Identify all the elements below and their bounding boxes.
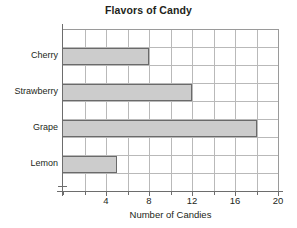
y-axis-category-labels: CherryStrawberryGrapeLemon <box>0 0 58 228</box>
x-axis-tick <box>63 191 64 195</box>
gridline-horizontal <box>63 173 278 174</box>
bar-cherry <box>62 48 149 65</box>
y-axis-label-grape: Grape <box>33 122 58 132</box>
gridline-vertical <box>214 29 215 191</box>
gridline-horizontal <box>63 137 278 138</box>
gridline-vertical <box>149 29 150 191</box>
y-axis-line <box>62 24 63 196</box>
x-axis-tick-label-8: 8 <box>134 195 164 206</box>
y-axis-label-lemon: Lemon <box>30 158 58 168</box>
origin-tick <box>58 186 67 187</box>
gridline-vertical <box>278 29 279 191</box>
x-axis-tick-label-4: 4 <box>91 195 121 206</box>
y-axis-label-strawberry: Strawberry <box>14 86 58 96</box>
bar-grape <box>62 120 257 137</box>
gridline-vertical <box>171 29 172 191</box>
x-axis-tick-label-16: 16 <box>220 195 250 206</box>
gridline-horizontal <box>63 29 278 30</box>
gridline-vertical <box>192 29 193 191</box>
x-axis-tick <box>214 191 215 195</box>
bar-lemon <box>62 156 117 173</box>
bar-strawberry <box>62 84 192 101</box>
gridline-horizontal <box>63 101 278 102</box>
bar-chart: Flavors of Candy CherryStrawberryGrapeLe… <box>0 0 297 228</box>
y-axis-label-cherry: Cherry <box>31 50 58 60</box>
plot-area <box>63 29 278 191</box>
gridline-vertical <box>257 29 258 191</box>
x-axis-tick-label-20: 20 <box>263 195 293 206</box>
x-axis-tick <box>128 191 129 195</box>
gridline-vertical <box>235 29 236 191</box>
x-axis-tick <box>257 191 258 195</box>
x-axis-tick <box>171 191 172 195</box>
x-axis-tick-label-12: 12 <box>177 195 207 206</box>
gridline-horizontal <box>63 65 278 66</box>
x-axis-title: Number of Candies <box>63 209 278 220</box>
x-axis-tick <box>85 191 86 195</box>
